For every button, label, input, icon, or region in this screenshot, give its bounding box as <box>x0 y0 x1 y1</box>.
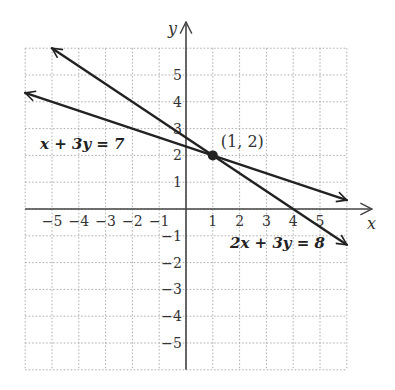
x-tick-label: 1 <box>208 213 217 229</box>
y-tick-label: 5 <box>173 67 182 83</box>
coordinate-plane: xy −5−4−3−2−11234554321−1−2−3−4−5 (1, 2)… <box>0 0 395 390</box>
y-tick-label: −1 <box>161 228 182 244</box>
x-tick-label: −2 <box>122 213 143 229</box>
x-tick-label: −5 <box>42 213 63 229</box>
x-tick-label: 3 <box>262 213 271 229</box>
x-tick-label: −1 <box>149 213 170 229</box>
y-tick-label: 4 <box>173 94 182 110</box>
y-tick-label: −3 <box>161 281 182 297</box>
y-tick-label: −2 <box>161 255 182 271</box>
y-axis-label: y <box>167 19 178 38</box>
y-tick-label: 2 <box>173 147 182 163</box>
equation-label-1: x + 3y = 7 <box>39 135 125 153</box>
point-label: (1, 2) <box>221 132 264 151</box>
x-axis-label: x <box>367 214 376 233</box>
x-tick-label: −4 <box>68 213 89 229</box>
intersection-point <box>208 150 218 160</box>
x-tick-label: −3 <box>95 213 116 229</box>
y-tick-label: −5 <box>161 335 182 351</box>
y-tick-label: −4 <box>161 308 182 324</box>
equation-label-2: 2x + 3y = 8 <box>229 234 326 252</box>
x-tick-label: 2 <box>235 213 244 229</box>
annotations: (1, 2)x + 3y = 72x + 3y = 8 <box>39 132 326 252</box>
x-tick-label: 4 <box>289 213 298 229</box>
y-tick-label: 1 <box>173 174 182 190</box>
axes: xy <box>25 19 376 370</box>
